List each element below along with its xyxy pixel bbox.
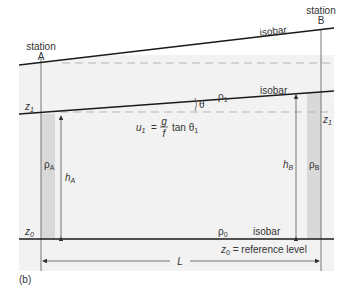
reference-level-label: z0 = reference level (220, 244, 307, 256)
svg-text:=: = (151, 122, 157, 133)
station-b-letter: B (318, 15, 325, 26)
station-a-letter: A (38, 51, 45, 62)
isobar-bottom-label: isobar (253, 226, 281, 237)
column-a-shade (41, 114, 55, 239)
distance-label: L (177, 256, 183, 267)
svg-text:g: g (161, 116, 167, 127)
geostrophic-diagram: station A station B isobar isobar isobar… (0, 0, 349, 302)
isobar-middle-label: isobar (260, 85, 288, 96)
theta-label: θ (199, 99, 205, 110)
figure-label: (b) (19, 274, 31, 285)
isobar-top-label: isobar (259, 24, 288, 38)
